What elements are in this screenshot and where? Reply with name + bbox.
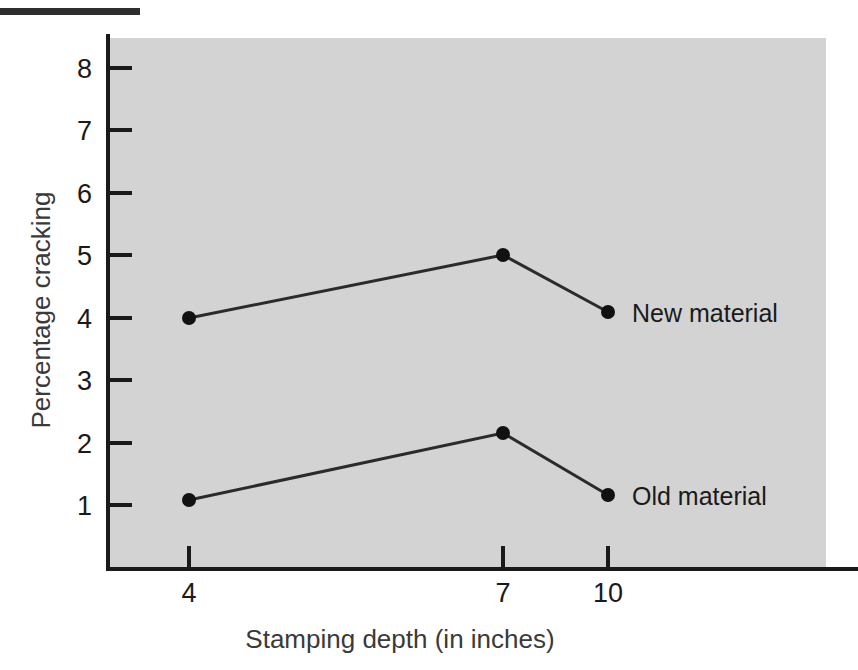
x-axis-title: Stamping depth (in inches) <box>245 624 554 654</box>
series-label-old-material: Old material <box>632 482 767 510</box>
series-label-new-material: New material <box>632 299 778 327</box>
chart-plot-wrapper: 8 7 6 5 4 3 2 1 4 7 10 Stamping depth (i… <box>0 0 858 670</box>
x-tick-label-10: 10 <box>593 578 623 608</box>
data-point-new-material-10 <box>601 305 615 319</box>
y-tick-label-4: 4 <box>77 304 92 334</box>
data-point-new-material-7 <box>496 248 510 262</box>
x-tick-label-7: 7 <box>495 578 510 608</box>
data-point-old-material-10 <box>601 488 615 502</box>
data-point-old-material-4 <box>182 493 196 507</box>
x-tick-label-4: 4 <box>181 578 196 608</box>
data-point-new-material-4 <box>182 311 196 325</box>
figure-container: 8 7 6 5 4 3 2 1 4 7 10 Stamping depth (i… <box>0 0 858 670</box>
y-tick-label-1: 1 <box>77 491 92 521</box>
y-tick-label-6: 6 <box>77 179 92 209</box>
y-tick-label-8: 8 <box>77 54 92 84</box>
y-tick-label-7: 7 <box>77 116 92 146</box>
line-chart: 8 7 6 5 4 3 2 1 4 7 10 Stamping depth (i… <box>0 0 858 670</box>
y-tick-label-3: 3 <box>77 366 92 396</box>
data-point-old-material-7 <box>496 426 510 440</box>
y-axis-title: Percentage cracking <box>26 191 56 428</box>
y-tick-label-5: 5 <box>77 241 92 271</box>
y-tick-label-2: 2 <box>77 429 92 459</box>
